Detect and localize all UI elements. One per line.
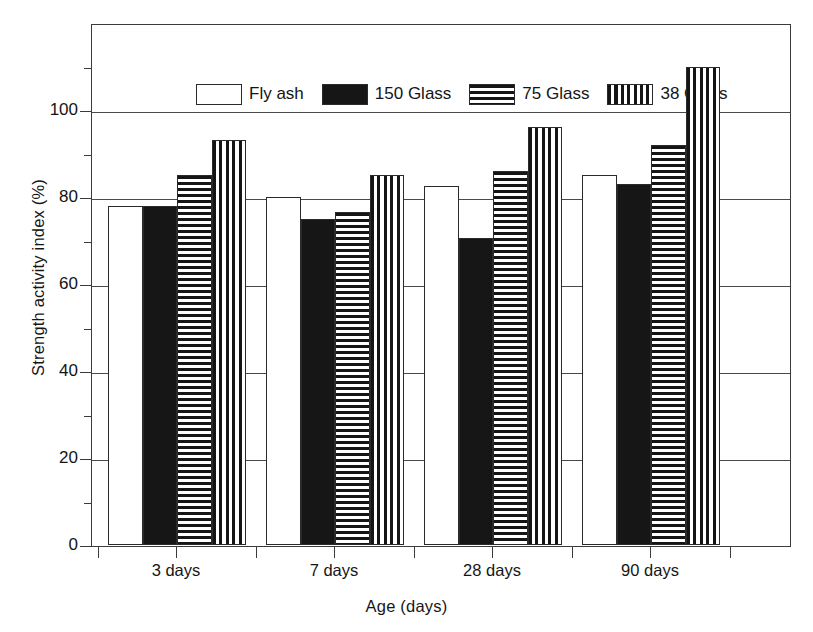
bar-fly-ash-3-days (108, 206, 143, 545)
bar-38-glass-90-days (686, 67, 721, 546)
bar-150-glass-3-days (143, 206, 178, 545)
x-tick-label-7-days: 7 days (264, 561, 404, 580)
bar-75-glass-90-days (651, 145, 686, 545)
bar-38-glass-3-days (212, 140, 247, 545)
y-tick-major-100 (80, 111, 91, 112)
legend-entry-fly-ash: Fly ash (196, 84, 304, 105)
y-tick-minor-30 (84, 416, 91, 417)
legend-entry-75-glass: 75 Glass (469, 84, 589, 105)
legend-label: 150 Glass (375, 84, 452, 104)
y-tick-minor-110 (84, 68, 91, 69)
chart-legend: Fly ash150 Glass75 Glass38 Glass (196, 77, 746, 111)
plot-area: Fly ash150 Glass75 Glass38 Glass (91, 24, 791, 547)
x-tick-0 (98, 547, 99, 558)
legend-label: 75 Glass (522, 84, 589, 104)
y-tick-label-100: 100 (26, 100, 78, 120)
y-tick-minor-90 (84, 155, 91, 156)
y-tick-label-40: 40 (26, 361, 78, 381)
y-tick-minor-10 (84, 503, 91, 504)
bar-fly-ash-28-days (424, 186, 459, 545)
x-tick-1 (256, 547, 257, 558)
y-tick-label-80: 80 (26, 187, 78, 207)
legend-entry-150-glass: 150 Glass (322, 84, 452, 105)
bar-150-glass-7-days (301, 219, 336, 545)
y-tick-major-0 (80, 546, 91, 547)
solid-black-rect-icon (322, 84, 368, 105)
y-tick-major-20 (80, 459, 91, 460)
x-tick-label-28-days: 28 days (422, 561, 562, 580)
x-tick-center-7-days (334, 547, 335, 558)
bar-38-glass-7-days (370, 175, 405, 545)
y-tick-label-60: 60 (26, 274, 78, 294)
y-tick-minor-50 (84, 329, 91, 330)
y-tick-label-0: 0 (26, 535, 78, 555)
legend-label: Fly ash (249, 84, 304, 104)
bar-chart-figure: Strength activity index (%) 020406080100… (0, 0, 813, 632)
x-tick-center-28-days (492, 547, 493, 558)
bar-75-glass-3-days (177, 175, 212, 545)
x-tick-label-90-days: 90 days (580, 561, 720, 580)
x-tick-label-3-days: 3 days (106, 561, 246, 580)
x-tick-center-3-days (176, 547, 177, 558)
horizontal-stripe-rect-icon (469, 84, 515, 105)
x-tick-4 (730, 547, 731, 558)
y-tick-major-40 (80, 372, 91, 373)
y-tick-major-80 (80, 198, 91, 199)
vertical-stripe-rect-icon (607, 84, 653, 105)
bar-150-glass-90-days (617, 184, 652, 545)
bar-150-glass-28-days (459, 238, 494, 545)
x-tick-2 (414, 547, 415, 558)
x-tick-3 (572, 547, 573, 558)
y-tick-minor-70 (84, 242, 91, 243)
bar-fly-ash-90-days (582, 175, 617, 545)
white-rect-icon (196, 84, 242, 105)
y-tick-major-60 (80, 285, 91, 286)
x-axis-title: Age (days) (0, 597, 813, 616)
bar-fly-ash-7-days (266, 197, 301, 545)
bar-38-glass-28-days (528, 127, 563, 545)
y-tick-label-20: 20 (26, 448, 78, 468)
bar-75-glass-28-days (493, 171, 528, 545)
x-tick-center-90-days (650, 547, 651, 558)
bar-75-glass-7-days (335, 212, 370, 545)
